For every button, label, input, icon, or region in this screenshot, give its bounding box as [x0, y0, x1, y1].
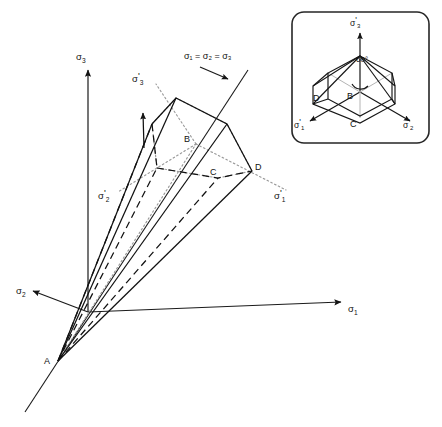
svg-text:σ3: σ3	[76, 51, 86, 64]
svg-text:σ'3: σ'3	[132, 70, 144, 86]
hydrostatic-axis-label: σ₁ = σ₂ = σ₃	[184, 51, 232, 61]
inset-label-point-D: D	[313, 93, 320, 103]
hidden-cross-section-edges	[152, 124, 252, 178]
inset-label-point-C: C	[350, 119, 357, 129]
sigma-prime-2-subscript: 2	[106, 196, 110, 203]
hidden-edge-left-to-C-to-D	[157, 168, 252, 178]
sigma-2-axis	[33, 291, 88, 312]
svg-text:σ1: σ1	[348, 303, 358, 316]
apex-to-center-dotted	[58, 144, 196, 361]
label-point-A: A	[44, 356, 50, 366]
stress-space-diagram: σ1 σ2 σ3 σ'1 σ'2 σ'3 σ₁ = σ₂ = σ₃ A	[0, 0, 442, 427]
inset-label-point-B: B	[347, 91, 353, 101]
label-point-D: D	[255, 162, 262, 172]
edge-apex-to-upper-right	[58, 124, 227, 361]
edge-apex-to-upper-left-outer	[58, 124, 152, 361]
sigma-prime-3-subscript: 3	[140, 79, 144, 86]
hydrostatic-pointer-arrow	[200, 67, 228, 79]
svg-text:σ'1: σ'1	[274, 187, 286, 203]
edge-apex-to-top	[58, 98, 176, 361]
sigma-3-subscript: 3	[82, 57, 86, 64]
sigma-1-axis	[88, 302, 341, 312]
label-point-B: B	[184, 134, 190, 144]
inset-angle-label: 60°	[356, 55, 368, 64]
label-point-C: C	[210, 167, 217, 177]
sigma-2-subscript: 2	[22, 291, 26, 298]
visible-lateral-edges	[58, 98, 252, 361]
edge-apex-to-D	[58, 171, 252, 361]
sigma-prime-1-subscript: 1	[282, 196, 286, 203]
sigma-1-subscript: 1	[354, 309, 358, 316]
upper-left-edge-marker	[143, 113, 144, 148]
svg-text:σ'2: σ'2	[98, 187, 110, 203]
pi-plane-hexagon-dotted	[152, 98, 252, 178]
pi-plane-inset: σ'1 σ'2 σ'3 60° B C D	[292, 12, 429, 143]
projected-axis-labels: σ'1 σ'2 σ'3	[98, 70, 286, 203]
svg-text:σ2: σ2	[16, 285, 26, 298]
